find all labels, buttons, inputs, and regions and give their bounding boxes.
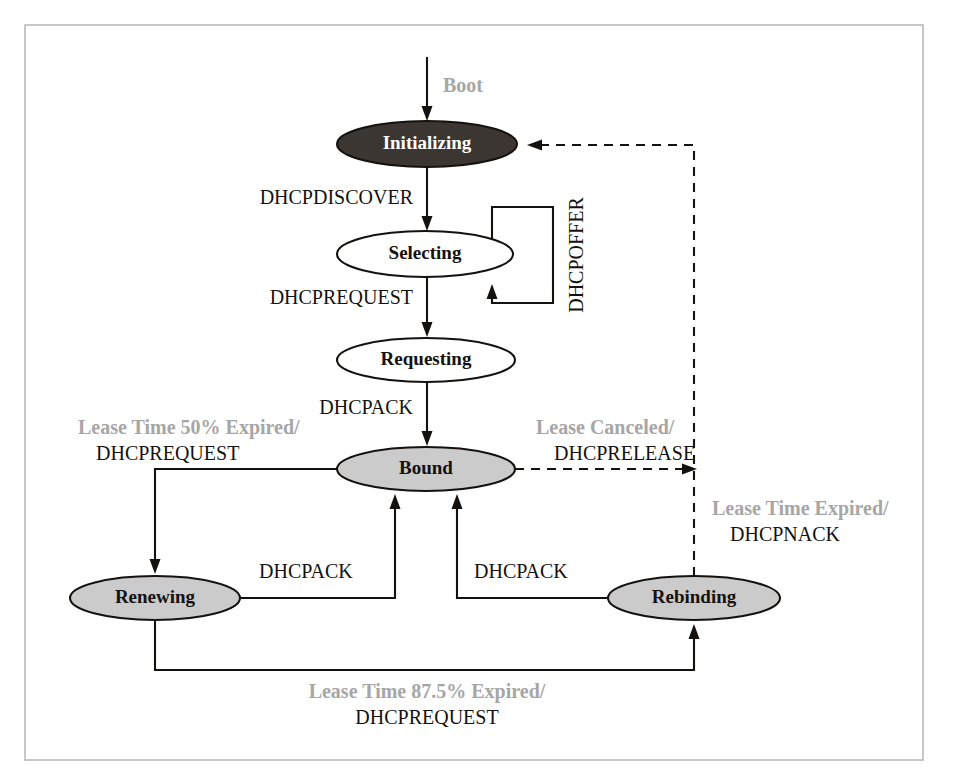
dhcp-state-diagram-figure: InitializingSelectingRequestingBoundRene…	[0, 0, 954, 784]
transition-renewing-to-bound	[240, 494, 401, 598]
transition-initializing-to-selecting	[422, 167, 433, 231]
transition-labels-layer: BootDHCPDISCOVERDHCPOFFERDHCPREQUESTDHCP…	[78, 74, 889, 728]
arrowhead-icon	[390, 494, 401, 509]
transition-event-text: Lease Time Expired/	[712, 497, 889, 520]
transition-label-bound-to-renewing: Lease Time 50% Expired/DHCPREQUEST	[78, 416, 300, 464]
transition-label-selecting-to-requesting: DHCPREQUEST	[270, 286, 413, 308]
transition-label-rebinding-to-bound: DHCPACK	[474, 560, 568, 582]
transition-bound-to-initializing	[515, 464, 697, 475]
arrowhead-icon	[150, 559, 161, 574]
state-node-requesting[interactable]: Requesting	[337, 338, 515, 382]
transition-boot	[422, 57, 433, 121]
transition-path	[457, 498, 608, 598]
transition-label-requesting-to-bound: DHCPACK	[319, 396, 413, 418]
arrowhead-icon	[527, 140, 542, 151]
state-node-selecting[interactable]: Selecting	[337, 231, 513, 277]
transition-label-initializing-to-selecting: DHCPDISCOVER	[260, 186, 414, 208]
transition-rebinding-to-bound	[452, 494, 609, 598]
transition-action-text: DHCPACK	[259, 560, 353, 582]
transition-action-text: DHCPDISCOVER	[260, 186, 414, 208]
state-label-selecting: Selecting	[389, 242, 462, 263]
states-layer: InitializingSelectingRequestingBoundRene…	[70, 121, 780, 620]
state-label-rebinding: Rebinding	[652, 586, 737, 607]
transition-label-rebinding-to-initializing: Lease Time Expired/DHCPNACK	[712, 497, 889, 545]
transition-action-text: DHCPREQUEST	[270, 286, 413, 308]
transition-event-text: Lease Time 87.5% Expired/	[309, 680, 546, 703]
transition-bound-to-renewing	[150, 469, 338, 574]
state-label-renewing: Renewing	[115, 586, 196, 607]
state-diagram-canvas: InitializingSelectingRequestingBoundRene…	[0, 0, 954, 784]
transition-path	[155, 620, 694, 670]
state-label-bound: Bound	[399, 457, 453, 478]
transition-path	[240, 498, 395, 598]
state-node-initializing[interactable]: Initializing	[337, 121, 517, 167]
transition-action-text: DHCPREQUEST	[96, 442, 239, 464]
transition-label-selecting-self-loop: DHCPOFFER	[565, 197, 587, 313]
arrowhead-icon	[422, 216, 433, 231]
transition-action-text: DHCPOFFER	[565, 197, 587, 313]
transition-rebinding-to-initializing	[527, 140, 694, 577]
transition-action-text: DHCPACK	[474, 560, 568, 582]
transition-event-text: Lease Time 50% Expired/	[78, 416, 300, 439]
transition-action-text: DHCPRELEASE	[554, 442, 695, 464]
arrowhead-icon	[422, 431, 433, 446]
transition-label-renewing-to-bound: DHCPACK	[259, 560, 353, 582]
transition-path	[531, 145, 694, 576]
arrowhead-icon	[422, 322, 433, 337]
transition-renewing-to-rebinding	[155, 620, 700, 670]
transition-action-text: DHCPACK	[319, 396, 413, 418]
transition-selecting-to-requesting	[422, 277, 433, 337]
transition-label-bound-to-initializing: Lease Canceled/DHCPRELEASE	[536, 416, 695, 464]
arrowhead-icon	[487, 284, 498, 299]
state-label-requesting: Requesting	[381, 348, 472, 369]
transition-requesting-to-bound	[422, 382, 433, 446]
arrowhead-icon	[422, 106, 433, 121]
arrowhead-icon	[452, 494, 463, 509]
state-label-initializing: Initializing	[383, 132, 472, 153]
state-node-renewing[interactable]: Renewing	[70, 576, 240, 620]
transition-action-text: DHCPNACK	[730, 523, 841, 545]
transition-action-text: DHCPREQUEST	[355, 706, 498, 728]
state-node-bound[interactable]: Bound	[337, 447, 515, 491]
transition-event-text: Lease Canceled/	[536, 416, 675, 438]
transition-label-boot: Boot	[443, 74, 483, 96]
transition-event-text: Boot	[443, 74, 483, 96]
transition-label-renewing-to-rebinding: Lease Time 87.5% Expired/DHCPREQUEST	[309, 680, 546, 728]
arrowhead-icon	[689, 624, 700, 639]
transition-path	[155, 469, 337, 570]
state-node-rebinding[interactable]: Rebinding	[608, 576, 780, 620]
